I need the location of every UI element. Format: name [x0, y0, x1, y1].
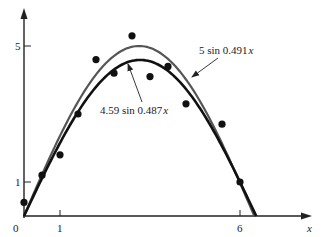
annotation-459sin: 4.59 sin 0.487x	[100, 104, 168, 116]
data-point	[236, 178, 243, 185]
data-point	[128, 32, 135, 39]
data-point	[92, 56, 99, 63]
data-point	[182, 100, 189, 107]
data-point	[146, 73, 153, 80]
plot-area: 5 1 0 1 6 x 5 sin 0.491x 4.59 sin 0.487x	[0, 0, 322, 237]
chart: 5 1 0 1 6 x 5 sin 0.491x 4.59 sin 0.487x	[0, 0, 322, 237]
data-point	[20, 199, 27, 206]
x-tick-label-1: 1	[57, 222, 63, 234]
y-tick-label-5: 5	[15, 40, 21, 52]
annotation-arrow-5sin	[192, 58, 218, 77]
annotation-arrow-459sin	[128, 64, 142, 102]
data-point	[74, 110, 81, 117]
data-point	[164, 63, 171, 70]
x-axis-arrow-icon	[301, 213, 312, 220]
data-point	[38, 172, 45, 179]
y-tick-label-1: 1	[15, 176, 21, 188]
x-axis-label: x	[306, 222, 312, 234]
x-tick-label-0: 0	[13, 222, 19, 234]
annotation-5sin: 5 sin 0.491x	[199, 44, 254, 56]
data-point	[110, 70, 117, 77]
y-axis-arrow-icon	[21, 8, 28, 19]
curve-5sin0491x	[24, 46, 254, 216]
data-point	[56, 151, 63, 158]
data-point	[218, 121, 225, 128]
x-tick-label-6: 6	[237, 222, 243, 234]
